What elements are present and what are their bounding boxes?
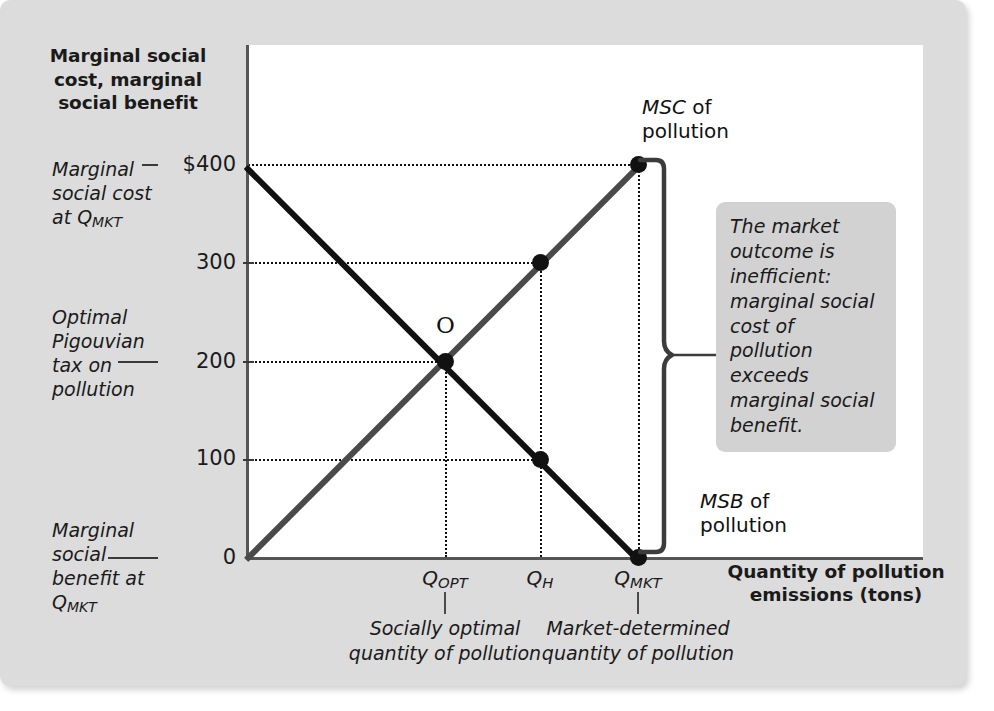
xtick-qh-q: Q <box>527 566 543 590</box>
ytick-300: 300 <box>148 250 236 274</box>
note-pigouvian-tax-text: Optimal Pigouvian tax on pollution <box>52 306 145 400</box>
xtick-qmkt-sub: MKT <box>630 574 662 591</box>
xtick-qopt-q: Q <box>422 566 438 590</box>
xtick-qopt-sub: OPT <box>438 574 468 591</box>
gridline-qmkt <box>638 164 640 557</box>
note-msc-at-qmkt: Marginal social cost at QMKT <box>52 158 162 231</box>
point-msb-qmkt-dot <box>630 549 647 566</box>
gridline-300 <box>248 262 540 264</box>
xtick-qmkt: QMKT <box>593 566 683 591</box>
xtick-qmkt-q: Q <box>614 566 630 590</box>
inefficiency-callout: The market outcome is inefficient: margi… <box>716 202 896 452</box>
xtick-qopt: QOPT <box>400 566 490 591</box>
point-msb-qh-dot <box>532 451 549 468</box>
y-axis-title: Marginal social cost, marginal social be… <box>24 44 232 115</box>
xtick-qh-sub: H <box>542 574 553 591</box>
externalities-diagram: Marginal social cost, marginal social be… <box>0 0 994 711</box>
ytick-200-stub <box>243 361 254 363</box>
caption-market-determined: Market-determined quantity of pollution <box>523 616 753 665</box>
xtick-qh: QH <box>495 566 585 591</box>
gridline-200 <box>248 361 445 363</box>
optimum-point-label: O <box>436 312 455 338</box>
note-msb-at-qmkt-sub: MKT <box>67 598 97 614</box>
note-msb-at-qmkt: Marginal social benefit at QMKT <box>52 519 162 616</box>
note-msb-at-qmkt-text: Marginal social benefit at Q <box>52 519 144 613</box>
msb-abbr: MSB <box>700 489 744 513</box>
y-axis-line <box>246 45 249 560</box>
gridline-100 <box>248 459 540 461</box>
gridline-qopt <box>445 361 447 557</box>
note-pigouvian-tax: Optimal Pigouvian tax on pollution <box>52 306 160 402</box>
note-msc-at-qmkt-sub: MKT <box>92 213 122 229</box>
gridline-qh <box>540 262 542 557</box>
leader-qmkt <box>637 592 639 614</box>
ytick-200: 200 <box>148 349 236 373</box>
ytick-100: 100 <box>148 446 236 470</box>
ytick-300-stub <box>243 262 254 264</box>
ytick-100-stub <box>243 459 254 461</box>
msc-abbr: MSC <box>642 95 686 119</box>
point-optimum-dot <box>437 353 454 370</box>
x-axis-title: Quantity of pollution emissions (tons) <box>718 560 954 606</box>
point-msc-qh-dot <box>532 254 549 271</box>
x-axis-line <box>246 557 923 560</box>
msc-curve-label: MSC of pollution <box>642 95 782 144</box>
gridline-400 <box>248 164 638 166</box>
point-msc-qmkt-dot <box>630 156 647 173</box>
msb-curve-label: MSB of pollution <box>700 489 840 538</box>
leader-qopt <box>444 592 446 614</box>
